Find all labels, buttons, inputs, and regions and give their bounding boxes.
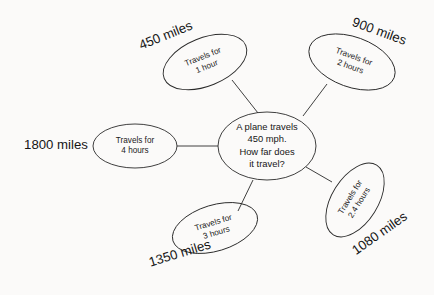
answer-label-two-hours: 900 miles: [350, 14, 409, 48]
branch-node-four-hours[interactable]: Travels for4 hours: [93, 124, 177, 168]
connector-one-hour: [232, 80, 258, 113]
answer-label-twopointfour-hours: 1080 miles: [349, 209, 410, 258]
branch-label-four-hours: Travels for: [116, 136, 155, 145]
center-label-line: How far does: [239, 146, 295, 157]
answer-label-one-hour: 450 miles: [137, 17, 195, 52]
center-label-line: 450 mph.: [247, 133, 286, 144]
connector-twopointfour-hours: [306, 167, 332, 182]
center-label-line: A plane travels: [236, 121, 298, 132]
center-node[interactable]: A plane travels450 mph.How far doesit tr…: [218, 112, 316, 180]
answer-label-three-hours: 1350 miles: [147, 236, 213, 269]
branch-group: Travels for1 hour450 milesTravels for2 h…: [24, 14, 410, 269]
mind-map-svg: Travels for1 hour450 milesTravels for2 h…: [0, 0, 434, 295]
diagram-canvas: Travels for1 hour450 milesTravels for2 h…: [0, 0, 434, 295]
branch-label-four-hours: 4 hours: [121, 146, 148, 155]
center-label-line: it travel?: [249, 158, 284, 169]
connector-three-hours: [238, 180, 253, 211]
center-node-group: A plane travels450 mph.How far doesit tr…: [218, 112, 316, 180]
answer-label-four-hours: 1800 miles: [24, 137, 88, 152]
connector-two-hours: [303, 84, 327, 116]
